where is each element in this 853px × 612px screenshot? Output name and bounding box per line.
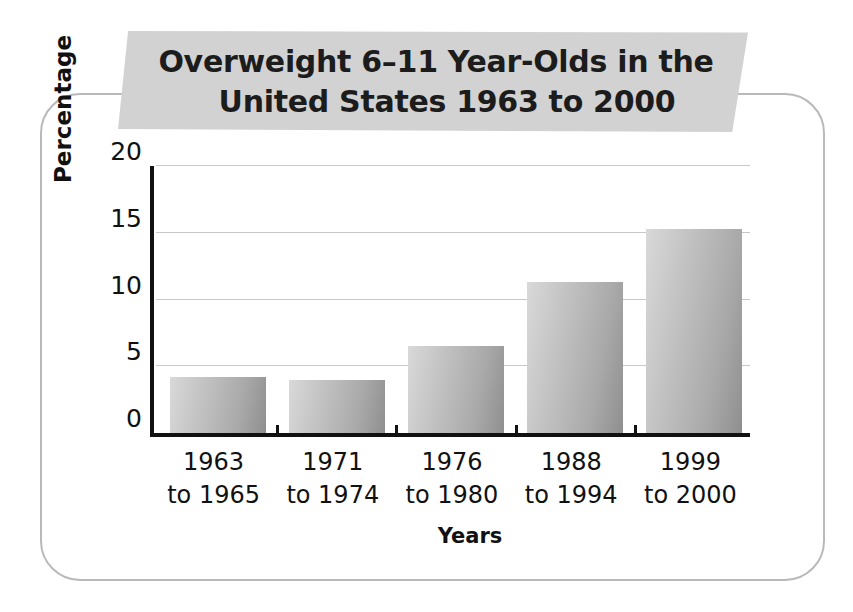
x-axis-label-2-end-year: to 1980 (392, 479, 511, 512)
x-axis-tick-4 (634, 425, 637, 437)
plot-wrapper: 05101520 (150, 166, 750, 441)
x-axis-tick-labels: 1963to 19651971to 19741976to 19801988to … (150, 446, 754, 518)
y-tick-label-5: 5 (88, 338, 142, 366)
x-axis-tick-2 (395, 425, 398, 437)
y-axis-tick-labels: 05101520 (88, 152, 142, 423)
x-axis-tick-3 (515, 425, 518, 437)
x-axis-title: Years (370, 524, 570, 548)
x-axis-label-0: 1963to 1965 (154, 446, 273, 512)
x-axis-label-1: 1971to 1974 (273, 446, 392, 512)
x-axis-label-3-end-year: to 1994 (512, 479, 631, 512)
x-axis-label-1-end-year: to 1974 (273, 479, 392, 512)
bar-1999-to-2000 (646, 229, 742, 433)
x-axis-label-0-start-year: 1963 (183, 448, 244, 476)
bar-1971-to-1974 (289, 380, 385, 433)
y-tick-label-10: 10 (88, 272, 142, 300)
chart-title-banner: Overweight 6–11 Year-Olds in the United … (118, 31, 748, 132)
x-axis-tick-1 (276, 425, 279, 437)
x-axis-label-4: 1999to 2000 (631, 446, 750, 512)
x-axis-label-4-start-year: 1999 (660, 448, 721, 476)
bar-1963-to-1965 (170, 377, 266, 433)
x-axis-label-3-start-year: 1988 (541, 448, 602, 476)
chart-title-line-1: Overweight 6–11 Year-Olds in the (158, 42, 713, 82)
y-axis-title: Percentage (49, 0, 77, 224)
x-axis-label-2-start-year: 1976 (421, 448, 482, 476)
x-axis-label-4-end-year: to 2000 (631, 479, 750, 512)
y-tick-label-0: 0 (88, 405, 142, 433)
y-tick-label-20: 20 (88, 138, 142, 166)
x-axis-label-3: 1988to 1994 (512, 446, 631, 512)
chart-title-line-2: United States 1963 to 2000 (219, 82, 676, 122)
y-tick-label-15: 15 (88, 205, 142, 233)
plot-area (150, 166, 750, 437)
x-axis-label-1-start-year: 1971 (302, 448, 363, 476)
bars-layer (158, 166, 754, 433)
bar-1988-to-1994 (527, 282, 623, 433)
x-axis-label-2: 1976to 1980 (392, 446, 511, 512)
x-axis-label-0-end-year: to 1965 (154, 479, 273, 512)
bar-1976-to-1980 (408, 346, 504, 433)
